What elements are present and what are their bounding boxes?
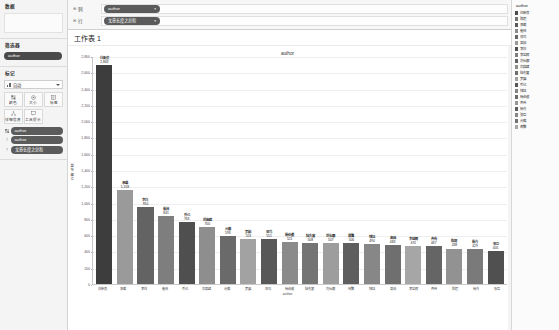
color-legend-panel: author 白新良陈超承载崔林邓乌高帅李白李益辉刘长卿刘高峰陆先富罗婷乔己钱钰… xyxy=(511,0,559,330)
legend-swatch xyxy=(515,35,518,38)
x-axis-tick-label: 李益辉 xyxy=(403,285,424,291)
bar-value-label: 483 xyxy=(390,241,396,245)
marks-size-button[interactable]: 大小 xyxy=(24,92,43,107)
y-axis-title: 文章长度 xyxy=(68,57,76,285)
x-axis-tick-label: 齐传 xyxy=(424,285,445,291)
marks-color-button[interactable]: 颜色 xyxy=(4,92,23,107)
bar-column[interactable]: 崔林841 xyxy=(156,57,177,284)
bars-container: 白新良2,843承载1,158李白950崔林841乔己763刘高峰700元稹59… xyxy=(93,57,507,284)
bar-rect[interactable] xyxy=(117,190,133,284)
bar-column[interactable]: 杨伯俊521 xyxy=(279,57,300,284)
bar-column[interactable]: 李益辉470 xyxy=(403,57,424,284)
legend-item-label: 陆先富 xyxy=(520,71,529,76)
bar-column[interactable]: 周繁506 xyxy=(341,57,362,284)
marks-detail-button[interactable]: 详细信息 xyxy=(4,109,23,124)
bar-rect[interactable] xyxy=(220,236,236,284)
legend-item-label: 钱钰 xyxy=(520,89,526,94)
mark-pill-author-color[interactable]: author xyxy=(11,127,64,135)
bar-column[interactable]: 乔己763 xyxy=(176,57,197,284)
vertical-scrollbar[interactable] xyxy=(508,46,511,330)
legend-item[interactable]: 周繁 xyxy=(515,124,556,130)
y-axis-tick: 2,800 xyxy=(81,55,90,59)
canvas-wrap: author 文章长度 02004006008001,0001,2001,400… xyxy=(68,46,511,330)
mark-pill-author-label[interactable]: author xyxy=(11,136,64,144)
bar-rect[interactable] xyxy=(302,243,318,284)
bar-column[interactable]: 高帅483 xyxy=(382,57,403,284)
legend-item-label: 周繁 xyxy=(520,125,526,130)
bar-rect[interactable] xyxy=(282,242,298,284)
left-sidebar: 数据 筛选器 author 标记 自动 xyxy=(0,0,68,330)
chevron-down-icon[interactable]: ▾ xyxy=(154,5,156,13)
expand-icon[interactable]: ⊞ xyxy=(73,18,76,23)
rows-pill-measure[interactable]: 文章长度之总和 ▾ xyxy=(104,17,160,25)
bar-column[interactable]: 杨方429 xyxy=(465,57,486,284)
bar-column[interactable]: 陆先富508 xyxy=(300,57,321,284)
legend-swatch xyxy=(515,65,518,68)
y-axis-tick: 200 xyxy=(84,267,90,271)
mark-pill-row[interactable]: T author xyxy=(4,136,63,144)
chevron-down-icon[interactable]: ▾ xyxy=(154,17,156,25)
bar-column[interactable]: 陈超438 xyxy=(444,57,465,284)
bar-rect[interactable] xyxy=(179,222,195,284)
bar-column[interactable]: 钱钰494 xyxy=(362,57,383,284)
bar-rect[interactable] xyxy=(426,246,442,284)
bar-column[interactable]: 白新良2,843 xyxy=(94,57,115,284)
bar-rect[interactable] xyxy=(199,227,215,284)
marks-type-dropdown[interactable]: 自动 xyxy=(4,80,63,89)
bar-rect[interactable] xyxy=(343,243,359,284)
bar-value-label: 841 xyxy=(163,212,169,216)
columns-pill-author[interactable]: author ▾ xyxy=(104,5,160,13)
bar-column[interactable]: 张巨405 xyxy=(485,57,506,284)
x-axis-tick-label: 邓乌 xyxy=(258,285,279,291)
x-axis-tick-label: 罗婷 xyxy=(237,285,258,291)
legend-swatch xyxy=(515,71,518,74)
mark-pill-row[interactable]: author xyxy=(4,127,63,135)
bar-rect[interactable] xyxy=(385,245,401,284)
y-axis-tick: 1,400 xyxy=(81,169,90,173)
bar-column[interactable]: 刘高峰700 xyxy=(197,57,218,284)
expand-icon[interactable]: ⊞ xyxy=(73,6,76,11)
bar-column[interactable]: 邓乌551 xyxy=(259,57,280,284)
y-axis-tick: 800 xyxy=(84,218,90,222)
bar-rect[interactable] xyxy=(96,65,112,284)
rows-label-text: 行 xyxy=(78,18,83,24)
bar-value-label: 438 xyxy=(452,244,458,248)
marks-label-button[interactable]: 标签 xyxy=(44,92,63,107)
legend-item-label: 陈超 xyxy=(520,17,526,22)
columns-shelf: ⊞ 列 author ▾ xyxy=(71,3,508,14)
bar-rect[interactable] xyxy=(446,249,462,285)
bar-column[interactable]: 李白950 xyxy=(135,57,156,284)
rows-shelf-drop[interactable]: 文章长度之总和 ▾ xyxy=(101,16,508,26)
bar-rect[interactable] xyxy=(405,246,421,284)
marks-color-label: 颜色 xyxy=(9,101,17,105)
bar-column[interactable]: 承载1,158 xyxy=(115,57,136,284)
x-axis-tick-label: 张巨 xyxy=(486,285,507,291)
bar-column[interactable]: 元稹593 xyxy=(218,57,239,284)
filter-pill-author[interactable]: author xyxy=(4,52,62,60)
bar-rect[interactable] xyxy=(137,207,153,284)
marks-tooltip-button[interactable]: 工具提示 xyxy=(24,109,43,124)
bar-column[interactable]: 刘长卿507 xyxy=(321,57,342,284)
marks-buttons-grid: 颜色 大小 标签 详细 xyxy=(4,92,63,124)
bar-rect[interactable] xyxy=(467,249,483,284)
x-axis-tick-label: 白新良 xyxy=(92,285,113,291)
rows-pill-label: 文章长度之总和 xyxy=(108,17,136,25)
data-pane-list[interactable] xyxy=(4,13,63,33)
bar-rect[interactable] xyxy=(261,239,277,284)
bar-column[interactable]: 齐传467 xyxy=(424,57,445,284)
legend-swatch xyxy=(515,77,518,80)
bar-column[interactable]: 罗婷553 xyxy=(238,57,259,284)
bar-rect[interactable] xyxy=(323,243,339,284)
size-icon xyxy=(31,94,36,100)
bar-rect[interactable] xyxy=(158,216,174,284)
abc-icon: T xyxy=(4,147,9,152)
bar-rect[interactable] xyxy=(364,244,380,284)
bar-rect[interactable] xyxy=(488,251,504,284)
x-axis-tick-label: 杨伯俊 xyxy=(279,285,300,291)
color-icon xyxy=(11,94,16,100)
bar-rect[interactable] xyxy=(240,239,256,284)
columns-shelf-drop[interactable]: author ▾ xyxy=(101,4,508,14)
worksheet-title: 工作表 1 xyxy=(68,30,511,46)
mark-pill-measure-label[interactable]: 文章长度之总和 xyxy=(11,146,64,154)
mark-pill-row[interactable]: T 文章长度之总和 xyxy=(4,146,63,154)
